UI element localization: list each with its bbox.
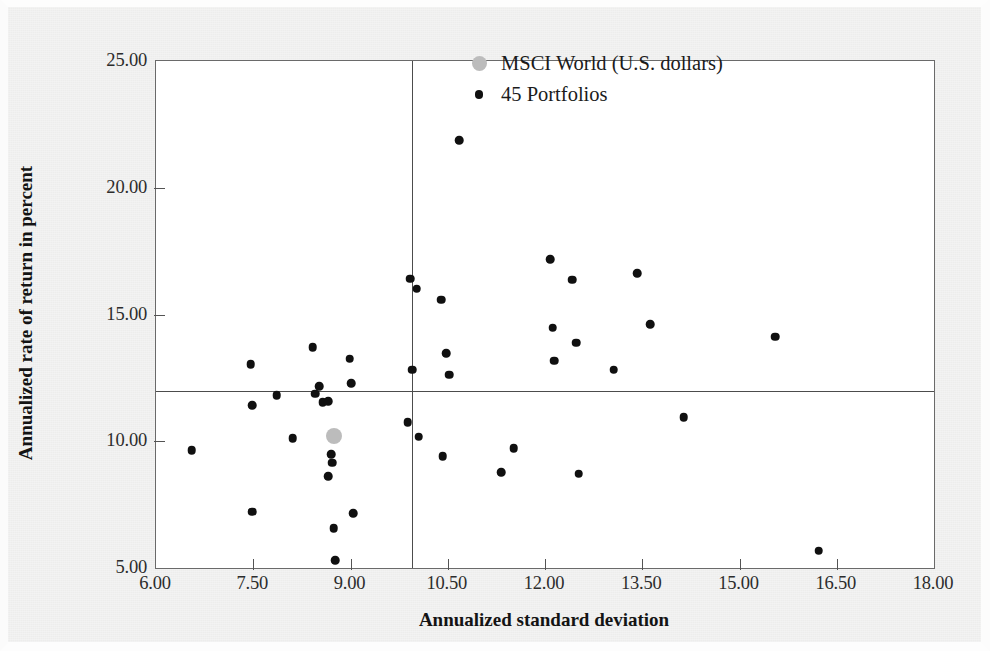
y-axis-tick-label: 10.00 xyxy=(106,430,147,451)
portfolio-marker xyxy=(568,275,577,284)
benchmark-marker xyxy=(326,428,342,444)
portfolio-marker xyxy=(408,365,417,374)
portfolio-marker xyxy=(510,444,519,453)
y-axis-tick xyxy=(154,188,165,189)
y-axis-title: Annualized rate of return in percent xyxy=(15,166,37,460)
portfolio-marker xyxy=(546,255,555,264)
x-axis-tick xyxy=(253,559,254,570)
portfolio-marker xyxy=(548,323,557,332)
portfolio-marker-icon xyxy=(475,90,484,99)
x-axis-tick xyxy=(351,559,352,570)
portfolio-marker xyxy=(327,450,336,459)
portfolio-marker xyxy=(347,379,356,388)
portfolio-marker xyxy=(406,274,415,283)
legend-swatch-wrapper xyxy=(457,90,501,99)
x-axis-tick-label: 10.50 xyxy=(426,573,467,594)
portfolio-marker xyxy=(246,360,255,369)
portfolio-marker xyxy=(442,349,451,358)
portfolio-marker xyxy=(574,469,583,478)
y-axis-tick xyxy=(154,315,165,316)
portfolio-marker xyxy=(311,389,320,398)
portfolio-marker xyxy=(315,382,324,391)
chart-legend: MSCI World (U.S. dollars)45 Portfolios xyxy=(457,48,723,110)
y-axis-tick-label: 25.00 xyxy=(106,50,147,71)
x-axis-tick-label: 18.00 xyxy=(913,573,954,594)
x-axis-tick-label: 6.00 xyxy=(139,573,171,594)
portfolio-marker xyxy=(572,339,581,348)
plot-frame xyxy=(155,60,935,569)
x-axis-tick-label: 13.50 xyxy=(621,573,662,594)
x-axis-tick-label: 9.00 xyxy=(334,573,366,594)
vertical-reference-line xyxy=(412,61,413,568)
portfolio-marker xyxy=(324,397,333,406)
portfolio-marker xyxy=(329,524,338,533)
portfolio-marker xyxy=(403,418,412,427)
figure-page: Annualized rate of return in percent Ann… xyxy=(0,0,990,651)
portfolio-marker xyxy=(679,413,688,422)
portfolio-marker xyxy=(248,401,257,410)
portfolio-marker xyxy=(187,446,196,455)
legend-swatch-wrapper xyxy=(457,56,501,71)
portfolio-marker xyxy=(248,507,257,516)
portfolio-marker xyxy=(349,509,358,518)
portfolio-marker xyxy=(455,136,464,145)
portfolio-marker xyxy=(289,434,298,443)
legend-entry: MSCI World (U.S. dollars) xyxy=(457,48,723,79)
x-axis-tick xyxy=(642,559,643,570)
y-axis-tick xyxy=(154,441,165,442)
x-axis-tick xyxy=(837,559,838,570)
x-axis-tick xyxy=(740,559,741,570)
portfolio-marker xyxy=(550,356,559,365)
portfolio-marker xyxy=(309,343,318,352)
portfolio-marker xyxy=(814,546,823,555)
x-axis-tick xyxy=(545,559,546,570)
portfolio-marker xyxy=(414,432,423,441)
portfolio-marker xyxy=(272,391,281,400)
legend-entry: 45 Portfolios xyxy=(457,79,723,110)
portfolio-marker xyxy=(609,365,618,374)
portfolio-marker xyxy=(324,472,333,481)
y-axis-tick-label: 15.00 xyxy=(106,303,147,324)
portfolio-marker xyxy=(438,452,447,461)
y-axis-tick-label: 20.00 xyxy=(106,176,147,197)
x-axis-tick-label: 7.50 xyxy=(236,573,268,594)
legend-label: MSCI World (U.S. dollars) xyxy=(501,52,723,75)
portfolio-marker xyxy=(771,333,780,342)
portfolio-marker xyxy=(412,284,421,293)
portfolio-marker xyxy=(445,371,454,380)
portfolio-marker xyxy=(633,269,642,278)
portfolio-marker xyxy=(331,556,340,565)
portfolio-marker xyxy=(497,468,506,477)
x-axis-tick-label: 15.00 xyxy=(718,573,759,594)
portfolio-marker xyxy=(646,320,655,329)
legend-label: 45 Portfolios xyxy=(501,83,608,106)
portfolio-marker xyxy=(437,296,446,305)
portfolio-marker xyxy=(328,459,337,468)
x-axis-title: Annualized standard deviation xyxy=(155,609,933,631)
x-axis-tick xyxy=(448,559,449,570)
x-axis-tick-label: 16.50 xyxy=(815,573,856,594)
x-axis-tick-label: 12.00 xyxy=(524,573,565,594)
benchmark-marker-icon xyxy=(472,56,487,71)
plot-area xyxy=(156,61,934,568)
portfolio-marker xyxy=(346,355,355,364)
